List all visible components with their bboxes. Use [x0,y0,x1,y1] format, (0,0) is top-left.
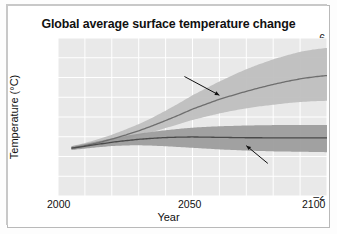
x-tick-2000: 2000 [47,198,70,210]
x-tick-2100: 2100 [302,198,325,210]
x-tick-2050: 2050 [178,198,201,210]
chart-title: Global average surface temperature chang… [8,17,329,31]
figure: Global average surface temperature chang… [0,0,337,234]
y-axis-label: Temperature (°C) [8,74,20,158]
plot-area [58,38,327,196]
x-axis-label: Year [8,211,329,223]
plot-svg [58,38,327,196]
figure-frame: Global average surface temperature chang… [7,5,330,228]
